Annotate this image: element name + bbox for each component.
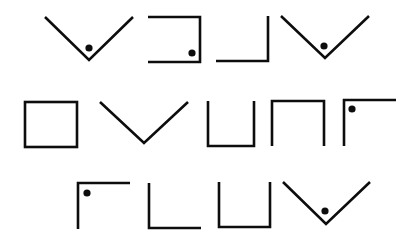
- cipher-row-2: [25, 100, 396, 147]
- glyph-u-icon: [208, 101, 254, 146]
- glyph-corner-bottom-left-icon: [149, 183, 201, 228]
- glyph-box-icon: [25, 102, 77, 147]
- cipher-row-3: [78, 182, 370, 229]
- cipher-glyph-canvas: [0, 0, 416, 243]
- glyph-n-icon: [272, 101, 324, 146]
- glyph-corner-top-left-dot-icon: [344, 100, 396, 146]
- glyph-u-icon: [219, 182, 270, 227]
- glyph-corner-top-left-dot-icon: [78, 183, 130, 229]
- glyph-v-dot-icon: [281, 16, 369, 58]
- pigpen-cipher-puzzle: pigpen-cipher: [0, 0, 416, 243]
- glyph-box-open-left-dot-icon: [148, 17, 200, 62]
- glyph-v-dot-icon: [45, 17, 133, 60]
- glyph-v-dot-icon: [283, 182, 370, 224]
- glyph-v-icon: [100, 102, 188, 143]
- glyph-corner-bottom-right-icon: [216, 16, 268, 61]
- cipher-row-1: [45, 16, 369, 62]
